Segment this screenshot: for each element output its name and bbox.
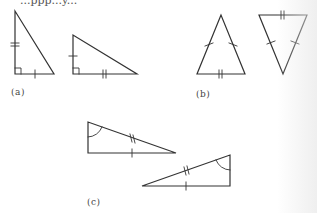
right-angle-marker: [15, 68, 21, 74]
right-angle-marker: [73, 68, 79, 74]
panel-c: [88, 122, 230, 190]
panel-a: [11, 11, 137, 78]
angle-arc-marker: [216, 160, 230, 170]
angle-arc-marker: [88, 127, 102, 137]
panel-a-label: (a): [11, 87, 25, 97]
triangle-congruence-diagram: [0, 0, 317, 213]
right-triangle-c1: [88, 122, 176, 157]
isosceles-triangle-b1: [197, 15, 245, 78]
right-triangle-c2: [142, 155, 230, 190]
right-triangle-a2: [69, 35, 137, 78]
panel-b-label: (b): [196, 89, 210, 99]
right-triangle-a1: [11, 11, 54, 78]
page-edge-shading: [277, 0, 317, 213]
panel-c-label: (c): [87, 197, 101, 207]
